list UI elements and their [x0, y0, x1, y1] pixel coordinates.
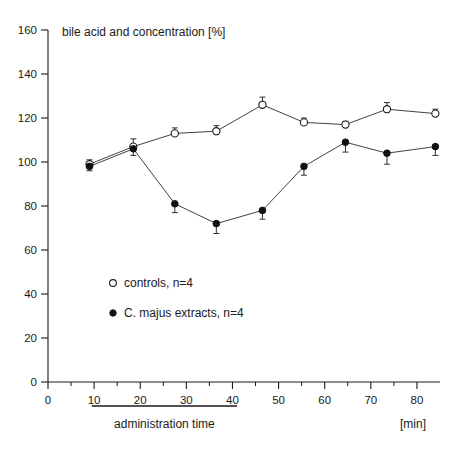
data-point-filled-circle-icon: [86, 163, 93, 170]
legend-marker-open-circle-icon: [110, 280, 117, 287]
data-point-open-circle-icon: [171, 130, 178, 137]
data-point-open-circle-icon: [259, 101, 266, 108]
data-point-filled-circle-icon: [342, 139, 349, 146]
data-point-filled-circle-icon: [172, 201, 179, 208]
bile-acid-concentration-chart: 02040608010012014016001020304050607080 b…: [0, 0, 451, 451]
legend-label-controls: controls, n=4: [124, 276, 193, 290]
y-tick-label: 0: [31, 376, 37, 388]
chart-legend: controls, n=4 C. majus extracts, n=4: [110, 276, 244, 320]
x-tick-label: 40: [226, 394, 239, 406]
series-controls: [86, 97, 439, 168]
data-point-filled-circle-icon: [259, 207, 266, 214]
chart-axes: [41, 30, 440, 389]
x-tick-label: 70: [364, 394, 377, 406]
x-tick-label: 50: [272, 394, 285, 406]
chart-tick-labels: 02040608010012014016001020304050607080: [18, 24, 424, 406]
x-tick-label: 10: [88, 394, 101, 406]
data-point-open-circle-icon: [300, 119, 307, 126]
series-line: [90, 105, 436, 164]
series-extracts: [86, 139, 438, 234]
data-point-filled-circle-icon: [130, 146, 137, 153]
chart-title: bile acid and concentration [%]: [62, 25, 225, 39]
y-tick-label: 100: [18, 156, 37, 168]
data-point-filled-circle-icon: [213, 220, 220, 227]
data-point-open-circle-icon: [432, 110, 439, 117]
legend-marker-filled-circle-icon: [110, 310, 116, 316]
chart-container: 02040608010012014016001020304050607080 b…: [0, 0, 451, 451]
y-tick-label: 120: [18, 112, 37, 124]
legend-label-extracts: C. majus extracts, n=4: [124, 306, 244, 320]
x-axis-units-label: [min]: [400, 417, 426, 431]
x-tick-label: 0: [45, 394, 51, 406]
administration-time-label: administration time: [114, 417, 215, 431]
data-point-filled-circle-icon: [301, 163, 308, 170]
x-tick-label: 30: [180, 394, 193, 406]
y-tick-label: 60: [24, 244, 37, 256]
y-tick-label: 160: [18, 24, 37, 36]
data-point-filled-circle-icon: [432, 143, 439, 150]
data-point-open-circle-icon: [213, 128, 220, 135]
data-point-filled-circle-icon: [384, 150, 391, 157]
x-tick-label: 20: [134, 394, 147, 406]
x-tick-label: 80: [411, 394, 424, 406]
y-tick-label: 40: [24, 288, 37, 300]
data-point-open-circle-icon: [383, 106, 390, 113]
x-tick-label: 60: [318, 394, 331, 406]
data-point-open-circle-icon: [342, 121, 349, 128]
y-tick-label: 80: [24, 200, 37, 212]
chart-series: [86, 97, 439, 233]
y-tick-label: 20: [24, 332, 37, 344]
y-tick-label: 140: [18, 68, 37, 80]
